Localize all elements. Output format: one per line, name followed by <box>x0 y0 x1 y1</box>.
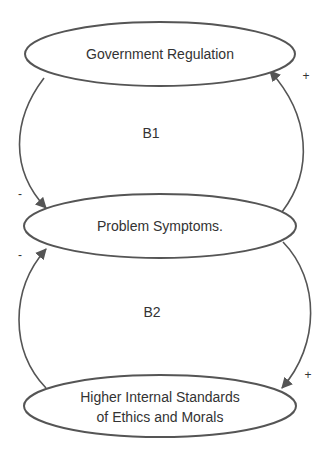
node-higher-standards: Higher Internal Standards of Ethics and … <box>24 375 296 437</box>
polarity-symptoms-to-standards: + <box>304 368 311 382</box>
node-government-regulation: Government Regulation <box>25 22 295 86</box>
loop-label-b1: B1 <box>142 125 159 141</box>
link-standards-to-symptoms <box>19 249 46 388</box>
node-ellipse <box>24 375 296 437</box>
causal-loop-diagram: Government Regulation Problem Symptoms. … <box>0 0 327 458</box>
polarity-symptoms-to-regulation: + <box>302 69 309 83</box>
node-label: Problem Symptoms. <box>97 218 223 234</box>
node-problem-symptoms: Problem Symptoms. <box>24 194 296 258</box>
node-label-line-2: of Ethics and Morals <box>97 409 224 425</box>
node-label-line-1: Higher Internal Standards <box>80 389 240 405</box>
link-symptoms-to-standards <box>282 242 311 388</box>
link-regulation-to-symptoms <box>20 78 47 208</box>
loop-label-b2: B2 <box>143 304 160 320</box>
polarity-standards-to-symptoms: - <box>18 248 22 262</box>
node-label: Government Regulation <box>86 46 234 62</box>
polarity-regulation-to-symptoms: - <box>18 187 22 201</box>
link-symptoms-to-regulation <box>270 71 303 212</box>
